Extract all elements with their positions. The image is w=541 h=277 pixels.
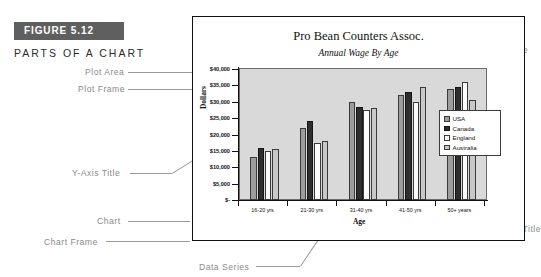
legend-swatch-usa [444,116,450,122]
figure-number-label: FIGURE 5.12 [24,25,94,36]
annotation-plot-frame: Plot Frame [78,84,125,94]
bar-usa-4[interactable] [398,95,404,200]
bar-australia-1[interactable] [272,149,278,200]
bar-australia-4[interactable] [420,87,426,200]
bar-australia-2[interactable] [322,141,328,200]
y-axis-tick-label: $- [225,197,230,203]
chart-frame: Pro Bean Counters Assoc. Annual Wage By … [192,16,525,241]
annotation-chart: Chart [97,216,121,226]
annotation-plot-area: Plot Area [85,67,124,77]
y-axis-tick [232,118,238,119]
figure-title: PARTS OF A CHART [14,47,145,59]
bar-canada-3[interactable] [356,107,362,200]
x-axis-tick [238,201,239,206]
y-axis-tick-label: $15,000 [210,148,230,154]
legend-label: USA [453,115,466,122]
x-axis-tick [435,201,436,206]
leader-line-chart [128,221,190,222]
y-axis-tick-label: $25,000 [210,115,230,121]
legend-item-australia[interactable]: Australia [444,143,497,153]
legend-label: Canada [453,125,475,132]
y-axis-tick [232,69,238,70]
y-axis-title: Dollars [199,86,208,109]
bar-england-4[interactable] [413,102,419,200]
x-axis-tick [336,201,337,206]
bar-canada-1[interactable] [258,148,264,200]
legend-label: Australia [453,144,477,151]
legend-swatch-england [444,135,450,141]
y-axis-tick-label: $10,000 [210,164,230,170]
x-axis-tick-label: 16-20 yrs [238,207,287,213]
x-axis-tick-label: 21-30 yrs [287,207,336,213]
y-axis-tick [232,184,238,185]
y-axis-tick-label: $5,000 [213,181,230,187]
y-axis-tick-label: $20,000 [210,132,230,138]
x-axis-tick [484,201,485,206]
y-axis-tick [232,167,238,168]
y-axis-tick [232,85,238,86]
legend-swatch-australia [444,145,450,151]
bar-usa-2[interactable] [300,128,306,200]
annotation-data-series: Data Series [199,262,249,272]
y-axis-tick-label: $40,000 [210,66,230,72]
bar-england-3[interactable] [363,110,369,200]
bar-canada-2[interactable] [307,121,313,200]
figure-number-badge: FIGURE 5.12 [14,22,124,40]
annotation-chart-frame: Chart Frame [44,237,98,247]
legend-swatch-canada [444,126,450,132]
y-axis-tick [232,135,238,136]
y-axis-tick-label: $35,000 [210,82,230,88]
chart-legend[interactable]: USACanadaEnglandAustralia [439,110,501,156]
x-axis-tick-label: 50+ years [435,207,484,213]
leader-line-data-series [256,266,300,267]
leader-line-y-axis-title [130,173,172,174]
x-axis-tick [287,201,288,206]
bar-england-1[interactable] [265,151,271,200]
legend-label: England [453,134,476,141]
y-axis-tick [232,151,238,152]
bar-usa-1[interactable] [250,157,256,200]
legend-item-canada[interactable]: Canada [444,124,497,134]
bar-canada-4[interactable] [405,92,411,200]
x-axis-tick [386,201,387,206]
bar-england-2[interactable] [314,143,320,200]
x-axis-tick-label: 41-50 yrs [386,207,435,213]
chart-title: Pro Bean Counters Assoc. [193,29,524,44]
x-axis-tick-label: 31-40 yrs [336,207,385,213]
y-axis-tick [232,102,238,103]
chart-subtitle: Annual Wage By Age [193,48,524,58]
leader-line-chart-frame [106,241,190,242]
y-axis-tick-label: $30,000 [210,99,230,105]
legend-item-england[interactable]: England [444,133,497,143]
y-axis-tick-labels: $40,000$35,000$30,000$25,000$20,000$15,0… [193,17,230,217]
bar-usa-3[interactable] [349,102,355,200]
x-axis-title: Age [353,217,365,226]
x-axis-line [238,200,488,201]
legend-item-usa[interactable]: USA [444,114,497,124]
bar-australia-3[interactable] [371,108,377,200]
annotation-y-axis-title: Y-Axis Title [72,168,120,178]
